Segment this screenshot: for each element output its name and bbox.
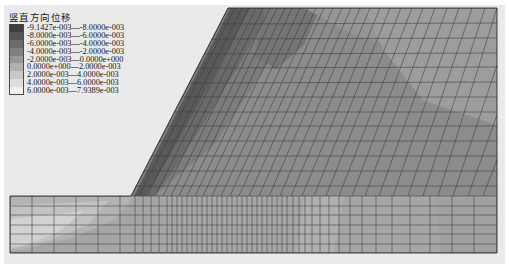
legend-swatch-0 xyxy=(9,24,24,32)
legend-row: 6.0000e-003—7.9389e-003 xyxy=(9,87,124,95)
legend-swatch-8 xyxy=(9,87,24,95)
contour-band-5-fnd-right xyxy=(434,196,497,253)
legend-swatch-2 xyxy=(9,40,24,48)
legend-swatch-3 xyxy=(9,48,24,56)
legend-swatch-5 xyxy=(9,63,24,71)
legend-swatch-7 xyxy=(9,79,24,87)
displacement-contour-figure: 竖直方向位移 -9.1427e-003—-8.0000e-003 -8.0000… xyxy=(0,0,509,269)
legend-label-8: 6.0000e-003—7.9389e-003 xyxy=(24,87,119,95)
legend-title: 竖直方向位移 xyxy=(9,12,124,23)
legend-swatch-4 xyxy=(9,56,24,64)
contour-legend: 竖直方向位移 -9.1427e-003—-8.0000e-003 -8.0000… xyxy=(9,12,124,95)
legend-swatch-1 xyxy=(9,32,24,40)
legend-swatch-6 xyxy=(9,71,24,79)
